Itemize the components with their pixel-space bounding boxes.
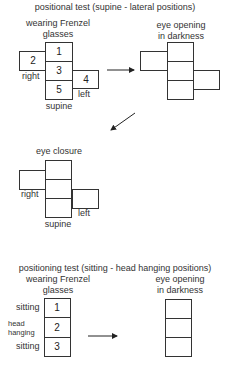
closure-box-left — [72, 189, 99, 209]
darkness-box-1 — [167, 42, 194, 62]
in-darkness-caption: in darkness — [158, 31, 204, 41]
row-label-hanging: hanging — [8, 329, 35, 337]
closure-box-right — [19, 170, 46, 190]
darkness-box-3 — [167, 61, 194, 81]
bottom-in-darkness-caption: in darkness — [157, 285, 203, 295]
sitting-number-3: 3 — [54, 342, 60, 352]
closure-box-5 — [45, 198, 72, 218]
closure-box-3 — [45, 179, 72, 199]
closure-label-right: right — [21, 189, 39, 199]
row-label-sitting-3: sitting — [16, 341, 40, 351]
bottom-glasses-caption: glasses — [43, 285, 74, 295]
bottom-eye-opening-caption: eye opening — [155, 274, 204, 284]
row-label-head: head — [8, 320, 25, 328]
darkness-box-left — [193, 70, 220, 90]
positioning-test-title: positioning test (sitting - head hanging… — [19, 263, 212, 273]
label-right: right — [22, 71, 40, 81]
closure-label-left: left — [78, 208, 90, 218]
box-number-1: 1 — [56, 47, 62, 57]
sitting-number-1: 1 — [54, 303, 60, 313]
bottom-wearing-frenzel-caption: wearing Frenzel — [26, 274, 90, 284]
box-number-4: 4 — [83, 75, 89, 85]
wearing-frenzel-caption: wearing Frenzel — [26, 18, 90, 28]
row-label-sitting-1: sitting — [16, 302, 40, 312]
eye-closure-caption: eye closure — [36, 146, 82, 156]
box-number-2: 2 — [30, 56, 36, 66]
box-number-3: 3 — [56, 66, 62, 76]
label-supine: supine — [46, 101, 73, 111]
box-number-5: 5 — [56, 85, 62, 95]
glasses-caption: glasses — [43, 29, 74, 39]
arrow-diagonal-icon — [111, 113, 135, 130]
label-left: left — [78, 89, 90, 99]
darkness-box-5 — [167, 80, 194, 100]
bottom-darkness-box-3 — [165, 337, 192, 357]
head-hanging-number-2: 2 — [54, 323, 60, 333]
eye-opening-caption: eye opening — [156, 20, 205, 30]
bottom-darkness-box-1 — [165, 299, 192, 319]
darkness-box-right — [140, 51, 168, 71]
closure-box-1 — [45, 160, 72, 180]
closure-label-supine: supine — [45, 219, 72, 229]
positional-test-title: positional test (supine - lateral positi… — [35, 2, 196, 12]
bottom-darkness-box-2 — [165, 318, 192, 338]
